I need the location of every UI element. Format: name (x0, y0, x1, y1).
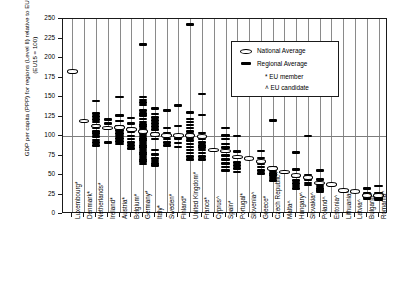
x-axis-label: Latvia^ (356, 199, 363, 219)
x-axis-label: Hungary^ (298, 192, 305, 219)
x-axis-label: Bulgaria^ (368, 193, 375, 219)
regional-average-marker (104, 118, 112, 121)
gridline (226, 19, 227, 212)
legend-regional-average-label: Regional Average (257, 60, 307, 67)
national-average-marker (232, 155, 243, 160)
gridline (214, 19, 215, 212)
x-tick (83, 213, 84, 217)
regional-average-marker (151, 149, 159, 152)
x-axis-label: Greece* (262, 196, 269, 219)
regional-average-marker (92, 135, 100, 138)
x-tick (71, 213, 72, 217)
national-average-marker (326, 182, 337, 187)
x-tick (319, 213, 320, 217)
gridline (343, 19, 344, 212)
regional-average-marker (292, 151, 300, 154)
x-axis-label: Italy* (156, 205, 163, 219)
national-average-marker (161, 133, 172, 138)
regional-average-marker (151, 153, 159, 156)
y-tick-label: 50 (29, 170, 55, 177)
y-tick-label: 75 (29, 151, 55, 158)
legend: National AverageRegional Average* EU mem… (231, 41, 339, 97)
regional-average-marker (186, 111, 194, 114)
national-average-marker (256, 159, 267, 164)
regional-average-marker (292, 187, 300, 190)
regional-average-marker (186, 143, 194, 146)
x-tick (283, 213, 284, 217)
x-tick (201, 213, 202, 217)
x-tick (142, 213, 143, 217)
regional-average-marker (304, 135, 312, 138)
regional-average-marker (221, 143, 229, 146)
x-axis-label: Malta^ (286, 201, 293, 219)
regional-average-marker (104, 141, 112, 144)
x-tick (213, 213, 214, 217)
national-average-marker (185, 133, 196, 138)
x-tick (366, 213, 367, 217)
gridline (379, 19, 380, 212)
regional-average-marker (115, 96, 123, 99)
x-axis-label: France* (203, 197, 210, 219)
x-tick (189, 213, 190, 217)
regional-average-marker (127, 147, 135, 150)
regional-average-marker (198, 93, 206, 96)
x-tick (272, 213, 273, 217)
x-axis-label: Slovenia^ (250, 192, 257, 219)
x-axis-label: Belgium* (133, 194, 140, 219)
x-axis-label: Slovakia^ (309, 192, 316, 219)
legend-eu-candidate-note: ˄ EU candidate (265, 84, 309, 91)
gridline (367, 19, 368, 212)
x-tick (107, 213, 108, 217)
national-average-marker (114, 125, 125, 130)
y-tick-label: 25 (29, 190, 55, 197)
chart-root: GDP per capita (PPP) for regions (Level … (0, 0, 417, 299)
regional-average-marker (221, 162, 229, 165)
regional-average-marker (221, 158, 229, 161)
regional-average-marker (186, 139, 194, 142)
regional-average-marker (151, 164, 159, 167)
regional-average-marker (257, 172, 265, 175)
gridline (84, 19, 85, 212)
regional-average-marker (127, 117, 135, 120)
legend-eu-member-note: * EU member (265, 73, 303, 80)
regional-average-marker (174, 146, 182, 149)
y-tick-label: 200 (29, 53, 55, 60)
national-average-marker (220, 149, 231, 154)
x-tick (119, 213, 120, 217)
regional-average-marker (92, 100, 100, 103)
regional-average-marker (186, 124, 194, 127)
x-tick (260, 213, 261, 217)
regional-average-marker (139, 118, 147, 121)
x-axis-label: Czech Republic^ (274, 172, 281, 219)
legend-regional-average-icon (241, 62, 251, 65)
x-tick (295, 213, 296, 217)
gridline (167, 19, 168, 212)
y-tick-label: 225 (29, 34, 55, 41)
gridline (355, 19, 356, 212)
legend-national-average-icon (240, 49, 252, 54)
regional-average-marker (292, 168, 300, 171)
y-tick (58, 213, 62, 214)
y-tick-label: 100 (29, 131, 55, 138)
regional-average-marker (221, 169, 229, 172)
regional-average-marker (186, 146, 194, 149)
y-tick-label: 150 (29, 92, 55, 99)
regional-average-marker (127, 135, 135, 138)
national-average-marker (138, 129, 149, 134)
regional-average-marker (174, 142, 182, 145)
y-tick-label: 0 (29, 209, 55, 216)
x-tick (248, 213, 249, 217)
regional-average-marker (139, 43, 147, 46)
regional-average-marker (151, 107, 159, 110)
regional-average-marker (115, 114, 123, 117)
regional-average-marker (374, 185, 382, 188)
regional-average-marker (269, 119, 277, 122)
y-tick-label: 125 (29, 112, 55, 119)
x-axis-label: Sweden* (168, 194, 175, 219)
national-average-marker (267, 166, 278, 171)
x-axis-label: Portugal* (239, 193, 246, 219)
regional-average-marker (92, 121, 100, 124)
x-axis-label: Ireland* (109, 197, 116, 219)
national-average-marker (126, 127, 137, 132)
x-tick (95, 213, 96, 217)
